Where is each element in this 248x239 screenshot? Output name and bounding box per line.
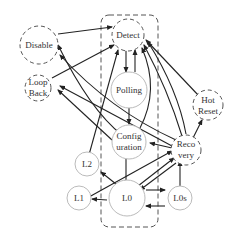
node-l0s: L0s: [168, 186, 192, 210]
edge-configuration-loopback: [58, 90, 112, 140]
node-disable: Disable: [20, 26, 58, 64]
svg-text:Back: Back: [29, 88, 48, 98]
svg-text:Hot: Hot: [201, 95, 215, 105]
node-recovery: Reco very: [171, 135, 201, 165]
node-hotreset: Hot Reset: [193, 90, 223, 120]
edge-l0-l2: [101, 172, 116, 184]
node-l2: L2: [75, 152, 99, 176]
edge-l0-recovery: [138, 158, 174, 186]
svg-text:very: very: [178, 150, 194, 160]
svg-text:Disable: Disable: [25, 40, 53, 50]
svg-text:L2: L2: [82, 159, 92, 169]
edge-recovery-detect-2: [148, 42, 186, 134]
ltssm-diagram: Detect Polling Config uration Reco very …: [0, 0, 248, 239]
node-configuration: Config uration: [112, 125, 146, 159]
svg-text:Polling: Polling: [116, 85, 143, 95]
edge-loopback-detect: [52, 45, 114, 78]
node-detect: Detect: [112, 19, 144, 51]
svg-text:Reset: Reset: [198, 106, 218, 116]
svg-text:Config: Config: [116, 131, 142, 141]
node-loopback: Loop Back: [25, 75, 51, 101]
svg-text:uration: uration: [116, 142, 142, 152]
node-polling: Polling: [111, 72, 147, 108]
svg-text:Detect: Detect: [116, 30, 140, 40]
svg-text:L1: L1: [74, 193, 84, 203]
diagram-canvas: Detect Polling Config uration Reco very …: [0, 0, 248, 239]
edge-disable-detect: [58, 27, 112, 34]
node-l0: L0: [109, 180, 145, 216]
svg-text:Loop: Loop: [29, 77, 48, 87]
node-l1: L1: [67, 186, 91, 210]
svg-text:Reco: Reco: [177, 139, 196, 149]
edge-l0-l1: [92, 199, 107, 200]
svg-text:L0: L0: [122, 193, 132, 203]
edges: [52, 27, 202, 206]
svg-text:L0s: L0s: [173, 193, 187, 203]
